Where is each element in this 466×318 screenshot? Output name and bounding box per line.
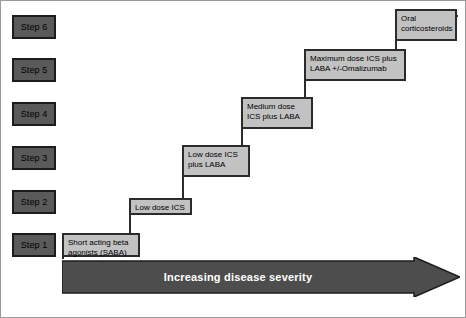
treatment-box-step-3-line-1: Low dose ICS: [188, 150, 244, 160]
treatment-box-step-3: Low dose ICS plus LABA: [182, 145, 250, 177]
step-label-3: Step 3: [12, 146, 56, 170]
treatment-box-step-1-line-1: Short acting beta: [68, 238, 134, 248]
treatment-box-step-6: Oral corticosteroids: [395, 9, 457, 41]
step-label-5-text: Step 5: [21, 65, 48, 75]
treatment-box-step-4-line-1: Medium dose: [247, 102, 307, 112]
connector-riser-3: [182, 177, 184, 199]
step-label-3-text: Step 3: [21, 153, 48, 163]
treatment-box-step-6-line-1: Oral: [401, 14, 451, 24]
step-label-1-text: Step 1: [21, 240, 48, 250]
step-label-1: Step 1: [12, 233, 56, 257]
step-label-2: Step 2: [12, 190, 56, 214]
step-label-6-text: Step 6: [21, 22, 48, 32]
treatment-box-step-4-line-2: ICS plus LABA: [247, 112, 307, 122]
severity-arrow-polygon: [62, 257, 460, 297]
severity-arrow-shape: [62, 257, 460, 297]
treatment-box-step-2-line-1: Low dose ICS: [135, 203, 186, 213]
step-label-6: Step 6: [12, 15, 56, 39]
treatment-box-step-3-line-2: plus LABA: [188, 160, 244, 170]
step-label-2-text: Step 2: [21, 197, 48, 207]
severity-arrow: Increasing disease severity: [62, 257, 460, 297]
treatment-box-step-5-line-2: LABA +/-Omalizumab: [310, 64, 400, 74]
treatment-box-step-5: Maximum dose ICS plus LABA +/-Omalizumab: [304, 49, 406, 81]
treatment-box-step-2: Low dose ICS: [129, 198, 192, 215]
diagram-canvas: Step 6 Step 5 Step 4 Step 3 Step 2 Step …: [0, 0, 466, 318]
treatment-box-step-4: Medium dose ICS plus LABA: [241, 97, 313, 129]
treatment-box-step-1: Short acting beta agonists (SABA): [62, 233, 140, 257]
step-label-4: Step 4: [12, 102, 56, 126]
treatment-box-step-6-line-2: corticosteroids: [401, 24, 451, 34]
treatment-box-step-5-line-1: Maximum dose ICS plus: [310, 54, 400, 64]
step-label-4-text: Step 4: [21, 109, 48, 119]
step-label-5: Step 5: [12, 58, 56, 82]
connector-riser-2: [129, 215, 131, 233]
